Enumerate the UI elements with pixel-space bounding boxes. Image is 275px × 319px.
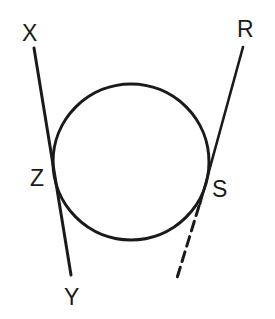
label-x: X — [22, 20, 37, 46]
label-y: Y — [64, 284, 79, 310]
label-s: S — [212, 176, 227, 202]
circle — [53, 84, 209, 240]
line-xy — [34, 48, 71, 275]
label-r: R — [237, 16, 254, 42]
tangent-lines-diagram: X Y Z R S — [0, 0, 275, 319]
label-z: Z — [30, 165, 44, 191]
